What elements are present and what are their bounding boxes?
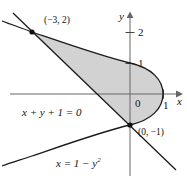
- point-marker-neg3-2: [29, 29, 34, 34]
- parabola-equation-text: x = 1 − y: [56, 157, 97, 169]
- x-tick-label-1: 1: [163, 100, 169, 111]
- origin-label: 0: [135, 98, 141, 109]
- y-axis-label: y: [119, 11, 124, 22]
- parabola-exponent: 2: [97, 156, 101, 164]
- graph-figure: (−3, 2) (0, −1) y x 0 2 1 1 x + y + 1 = …: [0, 0, 187, 180]
- point-label-neg3-2: (−3, 2): [44, 16, 70, 26]
- graph-canvas: [0, 0, 187, 180]
- parabola-equation-label: x = 1 − y2: [56, 157, 101, 169]
- point-label-0-neg1: (0, −1): [138, 128, 164, 138]
- x-axis-label: x: [177, 96, 182, 107]
- y-tick-label-1: 1: [138, 58, 144, 69]
- y-axis-arrow: [127, 12, 134, 19]
- y-tick-label-2: 2: [138, 27, 144, 38]
- line-equation-label: x + y + 1 = 0: [22, 107, 82, 118]
- point-marker-0-neg1: [127, 122, 132, 127]
